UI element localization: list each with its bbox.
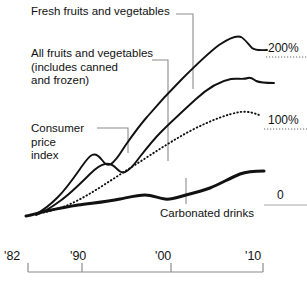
leader-lines xyxy=(97,14,193,204)
annotation-cpi-line-3: index xyxy=(31,149,84,163)
x-tick-label-00: '00 xyxy=(155,249,171,263)
annotation-fresh-fruits-and-vegetables: Fresh fruits and vegetables xyxy=(31,5,170,19)
x-axis xyxy=(28,263,263,272)
x-tick-label-82: '82 xyxy=(4,249,20,263)
annotation-all-line-1: All fruits and vegetables xyxy=(31,47,153,61)
annotation-carbonated-drinks: Carbonated drinks xyxy=(160,207,254,221)
annotation-all-fruits-and-vegetables: All fruits and vegetables (includes cann… xyxy=(31,47,153,88)
annotation-all-line-3: and frozen) xyxy=(31,74,153,88)
y-tick-label-0: 0 xyxy=(277,188,284,202)
annotation-carbonated-text: Carbonated drinks xyxy=(160,207,254,219)
annotation-fresh-text: Fresh fruits and vegetables xyxy=(31,5,170,17)
y-tick-label-100: 100% xyxy=(268,113,299,127)
annotation-cpi-line-2: price xyxy=(31,136,84,150)
price-index-chart: Fresh fruits and vegetables All fruits a… xyxy=(0,0,307,292)
x-tick-label-90: '90 xyxy=(70,249,86,263)
x-tick-label-10: '10 xyxy=(245,249,261,263)
annotation-cpi-line-1: Consumer xyxy=(31,122,84,136)
annotation-all-line-2: (includes canned xyxy=(31,61,153,75)
gridlines xyxy=(264,57,307,205)
annotation-consumer-price-index: Consumer price index xyxy=(31,122,84,163)
y-tick-label-200: 200% xyxy=(268,41,299,55)
